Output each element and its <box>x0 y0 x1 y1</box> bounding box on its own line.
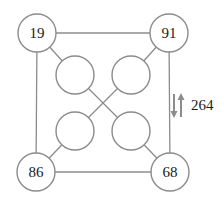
edges-layer <box>36 33 170 172</box>
diagram-canvas: 19918668 264 <box>0 0 224 207</box>
edge-top-left-to-bottom-left <box>36 33 37 172</box>
node-bottom-left: 86 <box>17 153 55 191</box>
node-top-right: 91 <box>150 14 188 52</box>
node-inner-bottom-left <box>56 112 94 150</box>
edge-top-right-to-bottom-right <box>169 33 170 172</box>
up-down-arrows-icon <box>171 93 185 118</box>
node-bottom-right: 68 <box>151 153 189 191</box>
annotation-label: 264 <box>191 97 214 113</box>
node-circle <box>56 56 94 94</box>
node-circle <box>112 56 150 94</box>
node-inner-top-left <box>56 56 94 94</box>
node-circle <box>56 112 94 150</box>
node-circle <box>112 112 150 150</box>
node-top-left: 19 <box>18 14 56 52</box>
node-inner-top-right <box>112 56 150 94</box>
node-value: 19 <box>30 25 45 41</box>
node-inner-bottom-right <box>112 112 150 150</box>
node-value: 86 <box>29 164 45 180</box>
node-value: 91 <box>162 25 177 41</box>
node-value: 68 <box>163 164 178 180</box>
